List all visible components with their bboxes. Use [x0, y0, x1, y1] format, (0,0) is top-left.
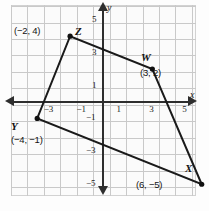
- coord-label-x: (6, −5): [136, 179, 162, 190]
- coord-label-w: (3, 2): [140, 67, 161, 78]
- vertex-label-x: X: [185, 162, 192, 174]
- vertex-point-z: [68, 34, 73, 39]
- quadrilateral-outline: [37, 36, 202, 184]
- vertex-label-z: Z: [75, 25, 82, 37]
- vertex-point-y: [35, 116, 40, 121]
- vertex-point-x: [199, 182, 204, 187]
- vertex-label-w: W: [141, 51, 151, 63]
- vertex-label-y: Y: [11, 120, 18, 132]
- coord-label-z: (−2, 4): [14, 25, 40, 36]
- coord-label-y: (−4, −1): [11, 134, 43, 145]
- coordinate-plane-figure: x y −3−1135 531−1−3−5 Z W Y X (−2, 4) (3…: [0, 0, 209, 211]
